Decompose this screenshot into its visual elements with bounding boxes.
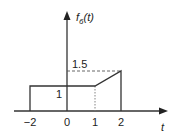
- y-tick-1: 1: [56, 88, 62, 100]
- x-axis-arrow-icon: [159, 108, 168, 115]
- y-axis-arrow-icon: [64, 11, 71, 20]
- y-tick-1-5: 1.5: [72, 58, 87, 70]
- x-tick-1: 1: [92, 116, 98, 128]
- signal-curve: [30, 71, 121, 111]
- x-tick-2: 2: [118, 116, 124, 128]
- x-axis-label: t: [161, 121, 165, 133]
- x-tick-neg2: −2: [24, 116, 37, 128]
- x-tick-0: 0: [64, 116, 70, 128]
- signal-plot: −2 0 1 2 1 1.5 t f6(t): [0, 0, 179, 135]
- y-axis-label: f6(t): [76, 11, 94, 26]
